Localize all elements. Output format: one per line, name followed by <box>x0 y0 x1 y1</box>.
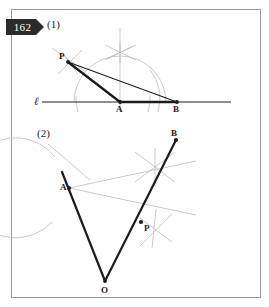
label-point-p-fig2: P <box>144 224 150 233</box>
label-point-a-fig1: A <box>116 105 123 114</box>
exercise-number-label: 162 <box>6 19 39 35</box>
label-point-o-fig2: O <box>101 286 108 295</box>
label-point-b-fig1: B <box>173 105 179 114</box>
label-point-b-fig2: B <box>171 129 177 138</box>
exercise-number-badge: 162 <box>6 19 46 35</box>
label-line-l: ℓ <box>34 96 39 107</box>
label-point-a-fig2: A <box>60 183 67 192</box>
part-2-caption: (2) <box>37 128 50 139</box>
page-frame <box>11 9 261 298</box>
label-point-p-fig1: P <box>59 52 65 61</box>
page-canvas: 162 (1) P A B ℓ (2) A B P O <box>0 0 269 307</box>
part-1-caption: (1) <box>47 19 60 30</box>
